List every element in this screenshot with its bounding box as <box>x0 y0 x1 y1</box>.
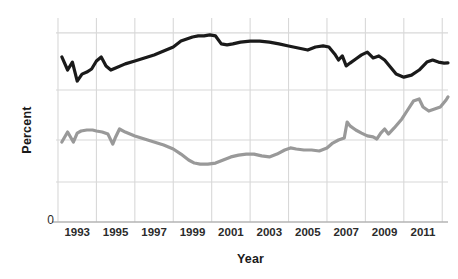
series-lines <box>62 35 448 164</box>
y-axis-title: Percent <box>20 95 34 165</box>
x-axis-tick-2009: 2009 <box>365 226 405 238</box>
x-axis-tick-1999: 1999 <box>173 226 213 238</box>
x-axis-tick-1995: 1995 <box>96 226 136 238</box>
series-line-lower-series <box>62 97 448 164</box>
x-axis-tick-2011: 2011 <box>403 226 443 238</box>
chart-figure: Percent Year 0 1993199519971999200120032… <box>0 0 458 279</box>
y-axis-tick-0: 0 <box>36 213 54 227</box>
x-axis-tick-1997: 1997 <box>134 226 174 238</box>
x-axis-tick-2001: 2001 <box>211 226 251 238</box>
x-axis-tick-2007: 2007 <box>326 226 366 238</box>
x-axis-title: Year <box>178 252 323 266</box>
vertical-gridlines <box>58 18 442 222</box>
x-axis-tick-2005: 2005 <box>288 226 328 238</box>
horizontal-gridlines <box>56 33 448 182</box>
x-axis-tick-1993: 1993 <box>57 226 97 238</box>
x-axis-tick-2003: 2003 <box>249 226 289 238</box>
series-line-upper-series <box>62 35 448 81</box>
